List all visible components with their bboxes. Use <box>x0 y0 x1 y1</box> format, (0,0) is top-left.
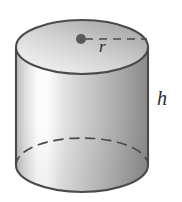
cylinder-illustration <box>0 0 182 202</box>
height-label: h <box>157 88 167 108</box>
center-point-dot <box>76 34 86 44</box>
cylinder-figure: r h <box>0 0 182 202</box>
radius-label: r <box>99 38 106 55</box>
top-face-disc <box>16 20 148 74</box>
